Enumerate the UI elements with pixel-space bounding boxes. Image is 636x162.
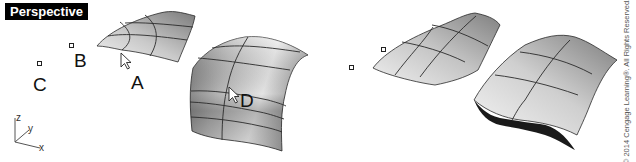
- perspective-viewport[interactable]: [0, 0, 636, 162]
- point-marker-right-2[interactable]: [350, 66, 354, 70]
- axis-label-x: x: [39, 143, 44, 153]
- point-marker-c[interactable]: [38, 62, 42, 66]
- axis-label-z: z: [16, 113, 21, 123]
- point-label-b: B: [74, 51, 87, 70]
- point-marker-right-1[interactable]: [382, 48, 386, 52]
- surface-3[interactable]: [373, 13, 500, 85]
- point-label-a: A: [131, 73, 144, 92]
- arrow-cursor-icon: [121, 53, 131, 69]
- point-label-c: C: [33, 75, 47, 94]
- axis-label-y: y: [28, 124, 33, 134]
- copyright-notice: © 2014 Cengage Learning®. All Rights Res…: [620, 0, 634, 162]
- point-marker-b[interactable]: [70, 44, 74, 48]
- point-label-d: D: [240, 91, 254, 110]
- surface-1[interactable]: [97, 12, 195, 62]
- surface-4[interactable]: [474, 35, 617, 150]
- copyright-text: © 2014 Cengage Learning®. All Rights Res…: [623, 0, 632, 162]
